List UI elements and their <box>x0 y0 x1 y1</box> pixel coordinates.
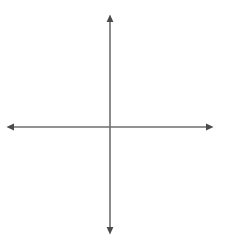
coordinate-plane <box>0 0 225 240</box>
plot-background <box>0 0 225 240</box>
